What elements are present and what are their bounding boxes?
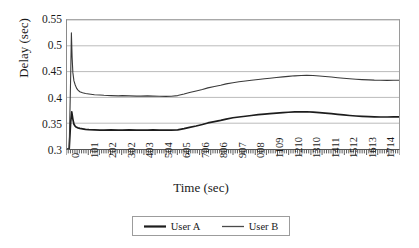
- x-axis-tick-label: 1512: [348, 137, 359, 158]
- x-axis-tick-label: 302: [126, 142, 137, 158]
- legend-item-user-a: User A: [144, 221, 200, 232]
- x-axis-title: Time (sec): [146, 180, 256, 196]
- x-axis-tick-label: 1210: [293, 137, 304, 158]
- legend-label-user-a: User A: [171, 221, 200, 232]
- x-axis-tick-label: 008: [255, 142, 266, 158]
- x-axis-tick-label: 101: [89, 142, 100, 158]
- x-axis-tick-label: 1613: [367, 137, 378, 158]
- legend-item-user-b: User B: [222, 221, 278, 232]
- x-axis-tick-label: 202: [107, 142, 118, 158]
- x-axis-tick-label: 504: [163, 142, 174, 158]
- legend-line-icon: [144, 223, 166, 230]
- x-axis-tick-label: 605: [181, 142, 192, 158]
- legend-line-icon: [222, 223, 244, 230]
- x-axis-tick-label: 907: [237, 142, 248, 158]
- x-axis-tick-label: 403: [144, 142, 155, 158]
- x-axis-tick-label: 706: [200, 142, 211, 158]
- line-chart: Delay (sec) 0.30.350.40.450.50.55 010120…: [0, 0, 419, 248]
- legend-label-user-b: User B: [249, 221, 278, 232]
- x-axis-tick-label: 1411: [330, 137, 341, 158]
- x-axis-tick-label: 806: [218, 142, 229, 158]
- chart-legend: User A User B: [132, 216, 290, 236]
- x-axis-tick-label: 1310: [311, 137, 322, 158]
- x-axis-tick-label: 1109: [274, 137, 285, 158]
- x-axis-tick-label: 0: [70, 153, 81, 158]
- x-axis-tick-label: 1714: [385, 137, 396, 158]
- x-axis-tick-labels: 0101202302403504605706806907008110912101…: [0, 0, 419, 248]
